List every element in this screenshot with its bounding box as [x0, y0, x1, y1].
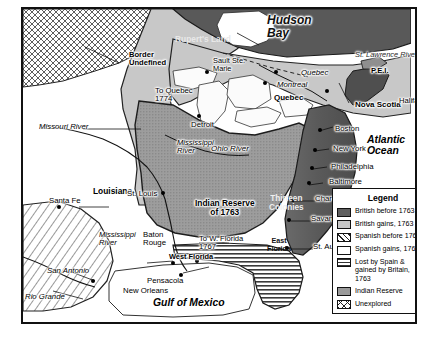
legend-item-indian-reserve: Indian Reserve [337, 287, 417, 297]
city-dot-pensacola [171, 261, 175, 265]
legend-swatch-british-gains-1763 [337, 220, 351, 229]
city-dot-montreal [263, 81, 267, 85]
city-dot-st-louis [161, 191, 165, 195]
legend-swatch-lost-by-spain [337, 258, 351, 267]
label-hudson-bay: Hudson Bay [267, 14, 312, 39]
label-quebec-city: Quebec [301, 69, 328, 77]
legend-item-spanish-before-1762: Spanish before 1762 [337, 232, 417, 242]
city-dot-santa-fe [57, 205, 61, 209]
label-west-florida: West Florida [169, 253, 213, 261]
legend-swatch-spanish-before-1762 [337, 233, 351, 242]
label-mississippi-river-north: Mississippi River [177, 139, 214, 155]
city-dot-philadelphia [310, 166, 314, 170]
legend-item-unexplored: Unexplored [337, 300, 417, 310]
city-dot-halifax [325, 89, 329, 93]
label-halifax: Halifax [399, 97, 417, 105]
city-dot-baltimore [307, 181, 311, 185]
label-indian-reserve-1763: Indian Reserve of 1763 [195, 199, 255, 217]
label-san-antonio: San Antonio [47, 267, 89, 275]
legend: Legend British before 1763 British gains… [332, 188, 417, 314]
city-dot-san-antonio [91, 279, 95, 283]
legend-item-spanish-gains-1762: Spanish gains, 1762 [337, 245, 417, 255]
label-gulf-of-mexico: Gulf of Mexico [153, 298, 225, 309]
label-ohio-river: Ohio River [211, 145, 249, 153]
label-pei: P.E.I. [371, 67, 389, 75]
legend-item-british-before-1763: British before 1763 [337, 207, 417, 217]
legend-swatch-unexplored [337, 300, 351, 309]
legend-swatch-spanish-gains-1762 [337, 246, 351, 255]
legend-label-unexplored: Unexplored [355, 300, 391, 309]
legend-swatch-british-before-1763 [337, 208, 351, 217]
label-st-lawrence-river: St. Lawrence River [355, 51, 417, 59]
label-quebec-province: Quebec [274, 94, 303, 102]
label-new-york: New York [333, 145, 366, 153]
legend-item-lost-by-spain: Lost by Spain & gained by Britain, 1763 [337, 258, 417, 284]
city-dot-sault-ste-marie [205, 70, 209, 74]
city-dot-detroit [197, 114, 201, 118]
label-santa-fe: Santa Fe [49, 197, 81, 205]
label-nova-scotia: Nova Scotia [355, 101, 401, 109]
legend-swatch-indian-reserve [337, 287, 351, 296]
legend-title: Legend [337, 193, 417, 203]
label-mississippi-river-south: Mississippi River [99, 231, 136, 247]
label-border-undefined: Border Undefined [129, 51, 166, 67]
label-baltimore: Baltimore [329, 178, 362, 186]
label-pensacola: Pensacola [147, 277, 183, 285]
city-dot-quebec [274, 70, 278, 74]
legend-label-british-gains-1763: British gains, 1763 [355, 220, 413, 229]
city-dot-boston [318, 128, 322, 132]
legend-label-spanish-before-1762: Spanish before 1762 [355, 232, 417, 241]
label-boston: Boston [335, 125, 359, 133]
label-sault-ste-marie: Sault Ste. Marie [213, 57, 245, 73]
city-dot-savannah [287, 218, 291, 222]
label-rio-grande: Rio Grande [25, 293, 65, 301]
label-st-louis: St. Louis [127, 190, 157, 198]
label-to-w-florida-1767: To W. Florida 1767 [199, 235, 243, 251]
map-frame: Hudson Bay Rupert's Land Border Undefine… [21, 7, 417, 324]
legend-label-indian-reserve: Indian Reserve [355, 287, 403, 296]
label-philadelphia: Philadelphia [331, 163, 373, 171]
label-to-quebec-1774: To Quebec 1774 [155, 87, 193, 103]
map-figure: Hudson Bay Rupert's Land Border Undefine… [0, 0, 434, 348]
legend-label-lost-by-spain: Lost by Spain & gained by Britain, 1763 [355, 258, 410, 284]
label-montreal: Montreal [277, 81, 307, 89]
label-east-florida: East Florida [267, 237, 291, 252]
label-missouri-river: Missouri River [39, 123, 88, 131]
legend-label-spanish-gains-1762: Spanish gains, 1762 [355, 245, 417, 254]
legend-item-british-gains-1763: British gains, 1763 [337, 220, 417, 230]
label-detroit: Detroit [191, 121, 214, 129]
label-ruperts-land: Rupert's Land [175, 35, 231, 44]
label-atlantic-ocean: Atlantic Ocean [367, 135, 405, 157]
label-baton-rouge: Baton Rouge [143, 231, 166, 247]
label-thirteen-colonies: Thirteen Colonies [269, 195, 304, 212]
label-new-orleans: New Orleans [123, 287, 168, 295]
city-dot-new-york [313, 148, 317, 152]
legend-label-british-before-1763: British before 1763 [355, 207, 415, 216]
